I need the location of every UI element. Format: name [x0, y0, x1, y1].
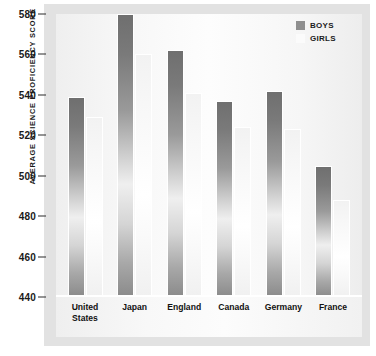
- y-axis-tick-mark: [38, 297, 46, 298]
- bar-boys: [315, 166, 332, 297]
- category-label: England: [161, 297, 207, 337]
- category-label: United States: [62, 297, 108, 337]
- y-axis-tick-label: 580: [0, 9, 36, 20]
- bar-boys: [266, 91, 283, 297]
- category-label: Canada: [211, 297, 257, 337]
- bar-group: [260, 14, 306, 297]
- category-label: Japan: [112, 297, 158, 337]
- y-axis-tick-mark: [38, 94, 46, 95]
- category-label-strip: United StatesJapanEnglandCanadaGermanyFr…: [56, 297, 362, 337]
- bar-group: [211, 14, 257, 297]
- y-axis-tick-mark: [38, 54, 46, 55]
- bar-boys: [216, 101, 233, 297]
- legend-item-boys: BOYS: [296, 20, 364, 31]
- plot-area: [56, 14, 362, 297]
- bar-boys: [167, 50, 184, 297]
- y-axis-tick-mark: [38, 256, 46, 257]
- category-label: France: [310, 297, 356, 337]
- legend-label-girls: GIRLS: [310, 34, 336, 43]
- bar-girls: [234, 127, 251, 297]
- bar-groups: [56, 14, 362, 297]
- y-axis-tick-label: 560: [0, 49, 36, 60]
- bar-girls: [284, 129, 301, 297]
- legend-swatch-girls: [296, 34, 305, 43]
- y-axis-tick-label: 520: [0, 130, 36, 141]
- bar-girls: [185, 93, 202, 297]
- bar-group: [62, 14, 108, 297]
- y-axis-tick-mark: [38, 175, 46, 176]
- bar-group: [161, 14, 207, 297]
- bar-boys: [68, 97, 85, 297]
- legend-item-girls: GIRLS: [296, 33, 364, 44]
- bar-girls: [86, 117, 103, 297]
- legend-label-boys: BOYS: [310, 21, 334, 30]
- y-axis-tick-mark: [38, 14, 46, 15]
- bar-group: [112, 14, 158, 297]
- category-label: Germany: [260, 297, 306, 337]
- chart-figure: AVERAGE SCIENCE PROFICIENCY SCORE 580560…: [0, 0, 376, 356]
- y-axis-tick-mark: [38, 135, 46, 136]
- y-axis-tick-label: 440: [0, 292, 36, 303]
- y-axis-tick-label: 480: [0, 211, 36, 222]
- bar-girls: [135, 54, 152, 297]
- bar-girls: [333, 200, 350, 297]
- bar-group: [310, 14, 356, 297]
- bar-boys: [117, 14, 134, 297]
- y-axis-tick-label: 460: [0, 251, 36, 262]
- chart-legend: BOYS GIRLS: [296, 20, 364, 46]
- legend-swatch-boys: [296, 21, 305, 30]
- y-axis-tick-label: 500: [0, 170, 36, 181]
- y-axis-tick-label: 540: [0, 89, 36, 100]
- y-axis-tick-mark: [38, 216, 46, 217]
